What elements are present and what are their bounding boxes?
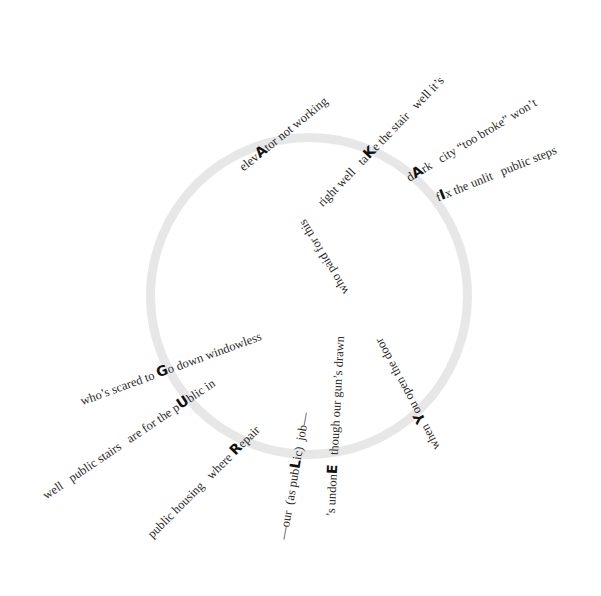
- line-pre: when: [416, 419, 443, 452]
- poem-canvas: elevAtor not working right well taKe the…: [0, 0, 601, 596]
- line-pre: public housing where: [144, 448, 237, 541]
- acrostic-letter: E: [323, 464, 339, 474]
- line-post: though our gun’s drawn: [326, 336, 347, 465]
- line-post: blic in: [183, 376, 217, 405]
- line-pre: ’s undon: [323, 474, 339, 517]
- line-pre: —our (as pub: [275, 467, 301, 540]
- line-post: ic) job—: [289, 411, 311, 461]
- line-pre: well public stairs are for the p: [40, 400, 182, 502]
